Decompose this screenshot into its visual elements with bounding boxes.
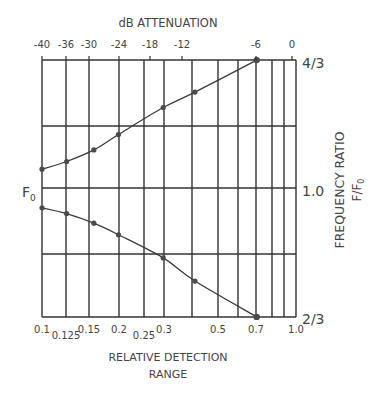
data-point <box>91 221 96 226</box>
right-tick-mid: 1.0 <box>302 183 324 199</box>
top-tick-label: -40 <box>34 39 50 50</box>
bottom-tick-label: 0.5 <box>210 324 226 335</box>
svg-text:F/F0: F/F0 <box>350 179 366 202</box>
bottom-tick-label: 0.15 <box>78 324 100 335</box>
right-tick-bottom: 2/3 <box>302 311 325 327</box>
data-point <box>64 159 69 164</box>
data-point <box>116 132 121 137</box>
data-point <box>161 105 166 110</box>
top-tick-label: -18 <box>142 39 158 50</box>
data-point <box>116 232 121 237</box>
top-tick-label: -6 <box>251 39 261 50</box>
right-axis-sublabel: F/F0 <box>350 179 366 202</box>
top-tick-label: 0 <box>289 39 295 50</box>
bottom-axis-title-line1: RELATIVE DETECTION <box>108 351 227 364</box>
data-point <box>192 278 197 283</box>
data-point <box>161 255 166 260</box>
curve-upper <box>42 60 257 169</box>
data-point <box>192 90 197 95</box>
data-point <box>253 314 259 320</box>
curve-lower <box>42 208 257 317</box>
frequency-ratio-chart: dB ATTENUATION -40-36-30-24-18-12-60 0.1… <box>0 0 389 398</box>
data-point <box>39 167 44 172</box>
chart-grid <box>42 60 296 317</box>
right-axis-title: FREQUENCY RATIO <box>332 131 347 248</box>
right-tick-top: 4/3 <box>302 55 325 71</box>
bottom-tick-label: 0.3 <box>156 324 172 335</box>
bottom-axis-ticks: 0.10.1250.150.20.250.30.50.71.0 <box>34 324 304 341</box>
f0-marker: F0 <box>22 184 36 203</box>
bottom-tick-label: 0.1 <box>34 324 50 335</box>
top-tick-label: -36 <box>58 39 74 50</box>
svg-text:F0: F0 <box>22 184 36 203</box>
top-tick-label: -30 <box>81 39 97 50</box>
bottom-tick-label: 0.125 <box>52 330 81 341</box>
bottom-tick-label: 0.7 <box>248 324 264 335</box>
data-point <box>253 57 259 63</box>
data-point <box>64 211 69 216</box>
bottom-tick-label: 0.25 <box>133 330 155 341</box>
bottom-axis-title-line2: RANGE <box>149 368 187 381</box>
top-axis-ticks: -40-36-30-24-18-12-60 <box>34 39 295 60</box>
top-tick-label: -24 <box>111 39 127 50</box>
data-point <box>39 205 44 210</box>
top-axis-title: dB ATTENUATION <box>119 16 218 30</box>
bottom-tick-label: 0.2 <box>111 324 127 335</box>
data-point <box>91 147 96 152</box>
top-tick-label: -12 <box>174 39 190 50</box>
